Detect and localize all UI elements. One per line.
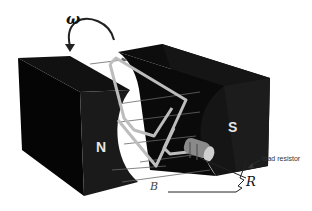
load-resistor-caption: load resistor xyxy=(262,155,300,162)
resistor-label: R xyxy=(246,174,256,189)
magnetic-field-label: B xyxy=(150,180,158,193)
omega-label: ω xyxy=(66,10,80,28)
north-pole-label: N xyxy=(96,139,106,155)
south-pole-label: S xyxy=(228,119,237,135)
